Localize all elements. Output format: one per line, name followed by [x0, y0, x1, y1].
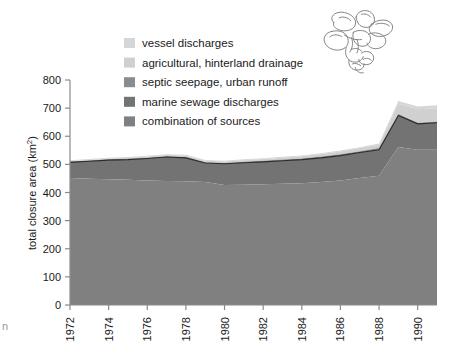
y-tick-label: 700: [43, 102, 61, 114]
x-tick-label: 1990: [412, 317, 424, 341]
x-tick-label: 1984: [296, 317, 308, 341]
y-axis-title-main: total closure area (km: [26, 144, 38, 250]
x-tick-label: 1980: [219, 317, 231, 341]
page-edge-artifact: n: [2, 320, 8, 332]
y-tick-label: 400: [43, 187, 61, 199]
x-tick-label: 1982: [257, 317, 269, 341]
legend-swatch: [124, 38, 135, 48]
legend-label: septic seepage, urban runoff: [142, 76, 288, 88]
legend-item[interactable]: marine sewage discharges: [124, 96, 279, 108]
x-tick-labels: 1972197419761978198019821984198619881990: [64, 317, 424, 341]
y-tick-labels: 0100200300400500600700800: [43, 74, 61, 311]
legend-label: marine sewage discharges: [142, 96, 279, 108]
legend-swatch: [124, 97, 135, 107]
legend-item[interactable]: agricultural, hinterland drainage: [124, 57, 303, 69]
svg-text:total closure area (km2): total closure area (km2): [25, 136, 38, 250]
y-tick-label: 100: [43, 271, 61, 283]
stack-areas: [70, 101, 437, 305]
legend-swatch: [124, 77, 135, 87]
y-tick-label: 800: [43, 74, 61, 86]
x-tick-label: 1988: [373, 317, 385, 341]
x-tick-label: 1986: [334, 317, 346, 341]
area-chart: 0100200300400500600700800 19721974197619…: [0, 0, 453, 361]
y-tick-label: 600: [43, 130, 61, 142]
x-tick-marks: [70, 305, 418, 310]
y-tick-label: 300: [43, 215, 61, 227]
legend-label: vessel discharges: [142, 37, 234, 49]
y-tick-marks: [65, 80, 70, 305]
x-tick-label: 1978: [180, 317, 192, 341]
y-tick-label: 500: [43, 158, 61, 170]
legend-label: combination of sources: [142, 115, 261, 127]
x-tick-label: 1976: [141, 317, 153, 341]
y-axis-title: total closure area (km2): [25, 136, 38, 250]
y-tick-label: 0: [55, 299, 61, 311]
legend-swatch: [124, 116, 135, 126]
legend: vessel dischargesagricultural, hinterlan…: [124, 37, 303, 127]
figure-root: n 0100200300400500600700800 197219741976…: [0, 0, 453, 361]
x-tick-label: 1972: [64, 317, 76, 341]
legend-item[interactable]: vessel discharges: [124, 37, 234, 49]
oyster-cluster-drawing: [324, 11, 393, 73]
y-axis-title-tail: ): [26, 136, 38, 140]
y-tick-label: 200: [43, 243, 61, 255]
x-tick-label: 1974: [103, 317, 115, 341]
legend-item[interactable]: combination of sources: [124, 115, 261, 127]
legend-item[interactable]: septic seepage, urban runoff: [124, 76, 288, 88]
legend-label: agricultural, hinterland drainage: [142, 57, 303, 69]
legend-swatch: [124, 58, 135, 68]
